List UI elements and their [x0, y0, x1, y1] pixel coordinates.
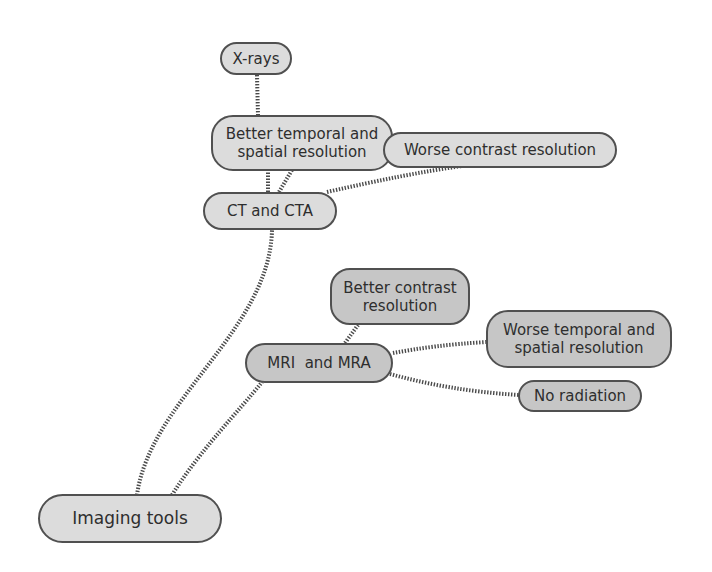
node-better-temporal-line2: spatial resolution: [226, 143, 378, 161]
connector-mri-worse-temporal: [393, 342, 487, 353]
node-mri-mra-label: MRI and MRA: [267, 354, 370, 372]
node-mri-mra: MRI and MRA: [245, 343, 393, 383]
node-better-contrast-line2: resolution: [343, 297, 456, 315]
node-ct-cta-label: CT and CTA: [227, 202, 313, 220]
node-worse-contrast-label: Worse contrast resolution: [404, 141, 596, 159]
node-worse-temporal-line1: Worse temporal and: [503, 321, 655, 339]
node-imaging-tools-label: Imaging tools: [72, 508, 188, 528]
node-imaging-tools: Imaging tools: [38, 494, 222, 543]
node-no-radiation: No radiation: [518, 380, 642, 412]
connector-ct-better-temporal-b: [279, 170, 292, 192]
node-worse-contrast: Worse contrast resolution: [383, 132, 617, 168]
node-xrays: X-rays: [220, 42, 292, 75]
node-worse-temporal-line2: spatial resolution: [503, 339, 655, 357]
node-better-contrast: Better contrast resolution: [330, 268, 470, 325]
connector-root-mri: [172, 382, 262, 495]
node-better-contrast-line1: Better contrast: [343, 279, 456, 297]
node-ct-cta: CT and CTA: [203, 192, 337, 230]
node-xrays-label: X-rays: [233, 50, 280, 68]
mind-map-diagram: X-rays Better temporal and spatial resol…: [0, 0, 712, 572]
connector-better-temporal-xrays: [257, 75, 258, 115]
node-no-radiation-label: No radiation: [534, 387, 626, 405]
connector-mri-no-radiation: [390, 374, 519, 395]
node-better-temporal-line1: Better temporal and: [226, 125, 378, 143]
connector-mri-better-contrast: [345, 325, 358, 343]
node-better-temporal-spatial: Better temporal and spatial resolution: [211, 115, 393, 171]
node-worse-temporal-spatial: Worse temporal and spatial resolution: [486, 310, 672, 368]
